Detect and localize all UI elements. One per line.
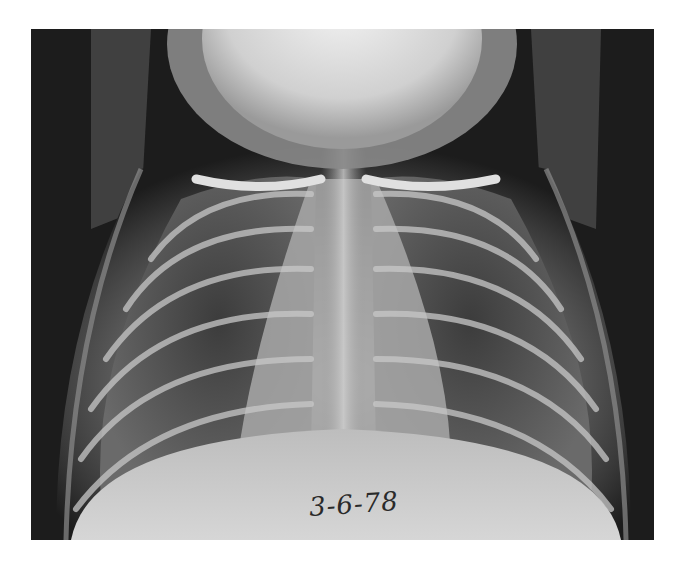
- chest-xray-image: 3-6-78: [31, 29, 654, 540]
- handwritten-date-label: 3-6-78: [308, 486, 400, 522]
- xray-rendering: [31, 29, 654, 540]
